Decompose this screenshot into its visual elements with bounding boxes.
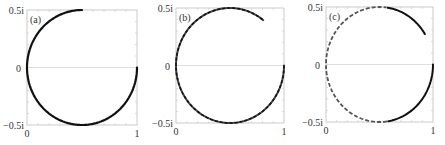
y-tick-label: −0.5i	[3, 120, 24, 131]
panel-c: 0.5i0−0.5i01(c)	[302, 2, 435, 136]
y-tick-label: 0	[315, 60, 320, 71]
x-tick-label: 0	[324, 125, 329, 136]
figure-canvas: 0.5i0−0.5i01(a)0.5i0−0.5i01(b)0.5i0−0.5i…	[0, 0, 445, 145]
x-tick-label: 1	[282, 126, 287, 137]
y-tick-label: 0	[165, 61, 170, 72]
y-tick-label: 0.5i	[308, 2, 324, 13]
curve	[388, 65, 433, 122]
x-tick-label: 1	[431, 125, 436, 136]
panel-label: (c)	[329, 11, 340, 23]
panel-a: 0.5i0−0.5i01(a)	[3, 5, 139, 139]
panel-label: (b)	[179, 12, 191, 24]
panel-label: (a)	[30, 14, 41, 26]
panel-b: 0.5i0−0.5i01(b)	[152, 3, 286, 137]
x-tick-label: 1	[135, 128, 140, 139]
y-tick-label: −0.5i	[302, 117, 323, 128]
y-tick-label: 0	[16, 63, 21, 74]
y-tick-label: 0.5i	[158, 3, 174, 14]
y-tick-label: 0.5i	[9, 5, 25, 16]
y-tick-label: −0.5i	[152, 118, 173, 129]
x-tick-label: 0	[25, 128, 30, 139]
x-tick-label: 0	[174, 126, 179, 137]
curve	[388, 8, 425, 34]
